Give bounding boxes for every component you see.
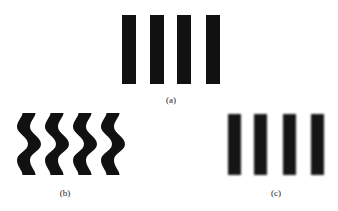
blurred-bar-1 bbox=[228, 114, 241, 175]
panel-c-blurred-bars: (c) bbox=[0, 0, 338, 211]
blurred-bar-2 bbox=[254, 114, 267, 175]
panel-c-label: (c) bbox=[261, 188, 291, 198]
blurred-bar-4 bbox=[311, 114, 324, 175]
blurred-bar-3 bbox=[283, 114, 296, 175]
